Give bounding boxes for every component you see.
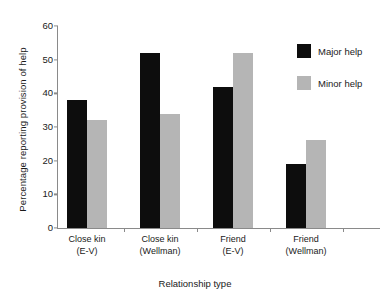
x-axis-label-line1: Close kin (68, 234, 105, 244)
y-tick-50: 50 (23, 60, 53, 70)
y-tick-label: 40 (23, 89, 53, 99)
y-tick-30: 30 (23, 127, 53, 137)
bar-chart: Percentage reporting provision of help 0… (0, 0, 390, 306)
bar-major-3 (286, 164, 306, 228)
bar-major-2 (213, 87, 233, 228)
y-tick-mark (54, 126, 58, 127)
x-axis-label-line1: Friend (293, 234, 319, 244)
x-tick-3 (270, 228, 271, 232)
x-axis-label-3: Friend(Wellman) (258, 234, 354, 257)
y-tick-mark (54, 59, 58, 60)
legend-label-major: Major help (318, 46, 362, 57)
bar-minor-3 (306, 140, 326, 228)
legend-item-minor: Minor help (297, 76, 362, 90)
x-tick-2 (197, 228, 198, 232)
chart-legend: Major helpMinor help (297, 44, 362, 108)
bar-minor-0 (87, 120, 107, 228)
x-tick-1 (124, 228, 125, 232)
y-tick-mark (54, 227, 58, 228)
y-tick-label: 50 (23, 55, 53, 65)
y-tick-20: 20 (23, 161, 53, 171)
legend-item-major: Major help (297, 44, 362, 58)
bar-minor-1 (160, 114, 180, 228)
y-tick-mark (54, 93, 58, 94)
x-axis-label-line1: Friend (220, 234, 246, 244)
legend-label-minor: Minor help (318, 78, 362, 89)
y-tick-label: 30 (23, 122, 53, 132)
y-tick-mark (54, 25, 58, 26)
y-tick-10: 10 (23, 194, 53, 204)
y-tick-label: 20 (23, 156, 53, 166)
legend-swatch-minor (297, 76, 311, 90)
bar-minor-2 (233, 53, 253, 228)
y-tick-60: 60 (23, 26, 53, 36)
x-axis-label-line1: Close kin (141, 234, 178, 244)
bar-major-1 (140, 53, 160, 228)
y-tick-mark (54, 194, 58, 195)
y-tick-label: 0 (23, 223, 53, 233)
y-tick-mark (54, 160, 58, 161)
x-axis-label-line2: (Wellman) (258, 246, 354, 258)
x-axis-line (57, 228, 380, 229)
legend-swatch-major (297, 44, 311, 58)
y-tick-label: 10 (23, 190, 53, 200)
x-axis-title: Relationship type (0, 278, 390, 289)
y-tick-40: 40 (23, 93, 53, 103)
x-tick-end (343, 228, 344, 232)
y-tick-label: 60 (23, 21, 53, 31)
bar-major-0 (67, 100, 87, 228)
